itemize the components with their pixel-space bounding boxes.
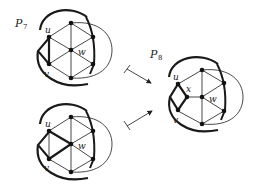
edge-u-center <box>49 131 71 144</box>
arrows <box>124 65 152 130</box>
arrow-top <box>127 69 151 83</box>
node-bottom <box>200 122 205 127</box>
label-v: v <box>44 69 49 79</box>
label-v: v <box>173 115 178 125</box>
node-center <box>69 48 74 53</box>
title-p7-sub: 7 <box>23 23 27 31</box>
node-u <box>47 35 52 40</box>
thick-diamond-uxv <box>170 84 187 110</box>
label-u: u <box>173 72 179 82</box>
node-top <box>69 21 74 26</box>
label-x: x <box>186 84 191 94</box>
node-v <box>47 157 52 162</box>
node-top-right <box>91 129 96 134</box>
label-u: u <box>45 25 51 35</box>
node-center <box>200 95 205 100</box>
label-w: w <box>209 94 217 104</box>
label-v: v <box>44 163 49 173</box>
node-u <box>176 82 181 87</box>
node-v <box>47 62 52 67</box>
label-w: w <box>78 47 86 57</box>
label-u: u <box>45 119 51 129</box>
node-bottom-right <box>91 62 96 67</box>
thick-chevron <box>38 132 49 158</box>
node-bottom <box>69 76 74 81</box>
arrow-bottom <box>127 111 152 126</box>
arrow-bottom-tbar <box>124 121 130 130</box>
figure-canvas: P 7 u w v u <box>0 0 254 195</box>
thick-chevron <box>38 38 49 64</box>
arrow-top-tbar <box>124 65 130 73</box>
edge-center-v <box>49 144 71 159</box>
graph-p8 <box>169 57 243 131</box>
node-top-right <box>91 35 96 40</box>
node-top-right <box>222 81 227 86</box>
node-bottom <box>69 170 74 175</box>
node-bottom-right <box>91 157 96 162</box>
node-center <box>69 142 74 147</box>
node-top <box>200 68 205 73</box>
node-top <box>69 115 74 120</box>
title-p8: P <box>149 48 158 61</box>
node-x <box>185 95 190 100</box>
title-p7: P <box>14 17 23 30</box>
node-u <box>47 129 52 134</box>
node-v <box>176 108 181 113</box>
title-p8-sub: 8 <box>158 54 162 62</box>
label-w: w <box>78 141 86 151</box>
node-bottom-right <box>222 109 227 114</box>
